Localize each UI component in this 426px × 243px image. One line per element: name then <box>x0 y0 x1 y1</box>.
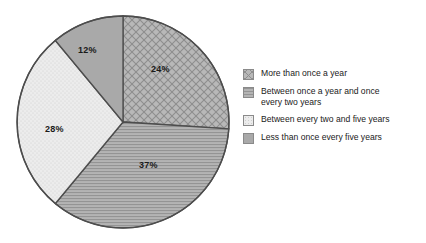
legend-swatch-fine-dots-icon <box>243 115 254 126</box>
legend-item-less-than-once-every-five-years[interactable]: Less than once every five years <box>243 132 426 144</box>
chart-legend: More than once a year Between once a yea… <box>243 68 426 144</box>
legend-label: Between every two and five years <box>261 114 390 125</box>
legend-swatch-crosshatch-icon <box>243 69 254 80</box>
pie-slice-more-than-once-a-year[interactable] <box>123 16 229 129</box>
slice-data-label-12: 12% <box>78 45 97 55</box>
pie-chart-figure: 24% 37% 28% 12% More than once a year Be… <box>0 0 426 243</box>
legend-swatch-solid-icon <box>243 133 254 144</box>
legend-label: Less than once every five years <box>261 132 382 143</box>
legend-label: Between once a year and once every two y… <box>261 86 380 108</box>
legend-item-more-than-once-a-year[interactable]: More than once a year <box>243 68 426 80</box>
legend-label: More than once a year <box>261 68 347 79</box>
pie-svg <box>0 0 246 243</box>
slice-data-label-37: 37% <box>139 160 158 170</box>
legend-item-between-once-a-year-and-once-every-two-years[interactable]: Between once a year and once every two y… <box>243 86 426 108</box>
legend-swatch-horizontal-lines-icon <box>243 87 254 98</box>
legend-item-between-every-two-and-five-years[interactable]: Between every two and five years <box>243 114 426 126</box>
slice-data-label-28: 28% <box>45 124 64 134</box>
pie-chart-graphic: 24% 37% 28% 12% <box>0 0 246 243</box>
slice-data-label-24: 24% <box>151 64 170 74</box>
